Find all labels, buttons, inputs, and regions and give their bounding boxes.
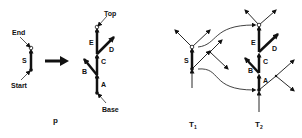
start-label: Start [11, 82, 28, 89]
mapping-arrow-end-to-top [198, 25, 254, 47]
edge-c-label: C [101, 58, 106, 65]
pattern-substitution-diagram: End S Start Top Base A B C D E p [0, 0, 302, 138]
tree-t2: A B C D E [245, 11, 293, 112]
edge-d-label: D [109, 46, 114, 53]
edge-e-label: E [89, 39, 94, 46]
start-node [29, 68, 33, 72]
caption-t2: T2 [255, 120, 263, 130]
t1-segment-s-label: S [184, 57, 189, 64]
mapping-arrow-start-to-base [198, 69, 254, 90]
base-label: Base [102, 106, 119, 113]
segment-s: End S Start [11, 29, 33, 89]
t2-edge-b-label: B [248, 67, 253, 74]
pattern-tree: Top Base A B C D E [82, 10, 119, 113]
top-label: Top [104, 10, 116, 18]
base-node [95, 91, 99, 95]
segment-s-label: S [22, 57, 27, 64]
t2-edge-d-label: D [272, 45, 277, 52]
edge-a-label: A [101, 81, 106, 88]
transform-arrow-icon [45, 56, 69, 66]
t2-edge-a-label: A [263, 77, 268, 84]
edge-b-label: B [82, 68, 87, 75]
t2-edge-e-label: E [251, 39, 256, 46]
t2-edge-c-label: C [263, 58, 268, 65]
top-node [95, 25, 99, 29]
caption-p: p [53, 116, 58, 125]
end-node [29, 46, 33, 50]
caption-t1: T1 [189, 120, 197, 130]
end-label: End [12, 29, 25, 36]
